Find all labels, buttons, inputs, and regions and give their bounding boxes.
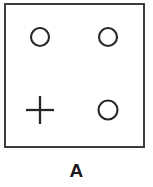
circle-icon — [97, 26, 119, 48]
figure-panel: A — [0, 0, 153, 187]
circle-icon — [97, 99, 119, 121]
panel-label: A — [0, 160, 153, 181]
plus-icon — [29, 99, 51, 121]
circle-icon — [29, 26, 51, 48]
symbol-layer — [6, 5, 143, 146]
stimulus-box — [4, 3, 145, 148]
